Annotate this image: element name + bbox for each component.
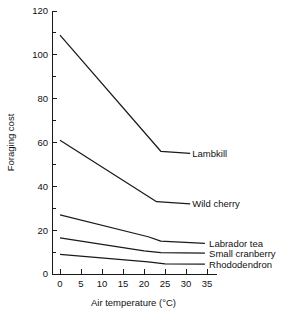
series-line-rhododendron	[60, 254, 205, 264]
x-axis-major-ticks	[60, 269, 207, 274]
series-lines	[60, 35, 205, 264]
x-tick-label-15: 15	[118, 278, 129, 289]
y-tick-label-100: 100	[32, 49, 48, 60]
x-tick-label-30: 30	[181, 278, 192, 289]
series-labels: LambkillWild cherryLabrador teaSmall cra…	[192, 148, 276, 270]
series-label-lambkill: Lambkill	[192, 148, 227, 159]
chart-figure: 020406080100120 05101520253035 LambkillW…	[0, 0, 298, 315]
x-tick-label-35: 35	[202, 278, 213, 289]
x-axis-tick-labels: 05101520253035	[57, 278, 212, 289]
x-tick-label-10: 10	[97, 278, 108, 289]
series-line-labrador-tea	[60, 215, 205, 244]
y-axis-tick-labels: 020406080100120	[32, 5, 48, 279]
y-tick-label-20: 20	[37, 225, 48, 236]
x-tick-label-25: 25	[160, 278, 171, 289]
x-tick-label-0: 0	[57, 278, 62, 289]
series-label-wild-cherry: Wild cherry	[192, 198, 240, 209]
x-tick-label-5: 5	[78, 278, 83, 289]
x-tick-label-20: 20	[139, 278, 150, 289]
y-tick-label-120: 120	[32, 5, 48, 16]
y-tick-label-40: 40	[37, 181, 48, 192]
series-label-small-cranberry: Small cranberry	[209, 248, 276, 259]
series-line-lambkill	[60, 35, 190, 153]
y-tick-label-80: 80	[37, 93, 48, 104]
y-tick-label-0: 0	[43, 268, 48, 279]
series-label-rhododendron: Rhododendron	[209, 259, 272, 270]
series-line-small-cranberry	[60, 238, 205, 253]
y-axis-title: Foraging cost	[5, 113, 16, 171]
y-tick-label-60: 60	[37, 137, 48, 148]
x-axis-title: Air temperature (°C)	[91, 297, 176, 308]
y-axis-major-ticks	[52, 11, 57, 274]
series-line-wild-cherry	[60, 140, 190, 204]
foraging-cost-line-chart: 020406080100120 05101520253035 LambkillW…	[0, 0, 298, 315]
